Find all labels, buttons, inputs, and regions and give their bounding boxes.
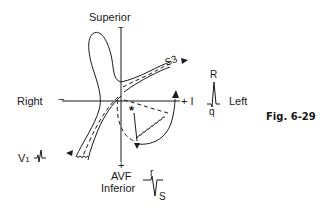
- s3-tube-upper: [121, 62, 170, 82]
- lead-I-complex: [207, 82, 220, 107]
- star-marker: *: [129, 104, 134, 117]
- inferior-label: Inferior: [101, 183, 135, 194]
- avf-label: AVF: [111, 171, 132, 182]
- superior-sign: −: [118, 23, 124, 33]
- right-label: Right: [17, 96, 43, 107]
- left-sign-lead-I: + I: [181, 96, 194, 107]
- star-to-arrow-line: [134, 113, 137, 141]
- figure-label: Fig. 6-29: [266, 111, 316, 122]
- s3-tube-dashed: [123, 64, 170, 87]
- lower-left-wavy: [76, 156, 88, 158]
- lead-aVF-S-label: S: [159, 192, 166, 202]
- lead-aVF-r-label: r: [150, 168, 153, 178]
- vector-loop-diagram: [0, 0, 320, 216]
- lead-I-R-label: R: [210, 70, 217, 80]
- lead-V1-complex: [34, 150, 46, 162]
- curved-arrow-to-left: [137, 99, 175, 144]
- v1-subscript: 1: [25, 155, 29, 164]
- center-wavy-line: [137, 117, 165, 138]
- superior-loop-outline: [76, 32, 121, 157]
- v1-label: V1: [18, 153, 30, 164]
- arrow-lower-left: [66, 150, 73, 156]
- superior-label: Superior: [89, 12, 131, 23]
- arrow-s3: [181, 58, 188, 64]
- lead-I-q-label: q: [209, 107, 215, 117]
- left-label: Left: [229, 96, 247, 107]
- lower-left-tube-inner: [88, 96, 121, 160]
- right-sign: −: [58, 94, 64, 105]
- arrow-up-right: [172, 90, 179, 98]
